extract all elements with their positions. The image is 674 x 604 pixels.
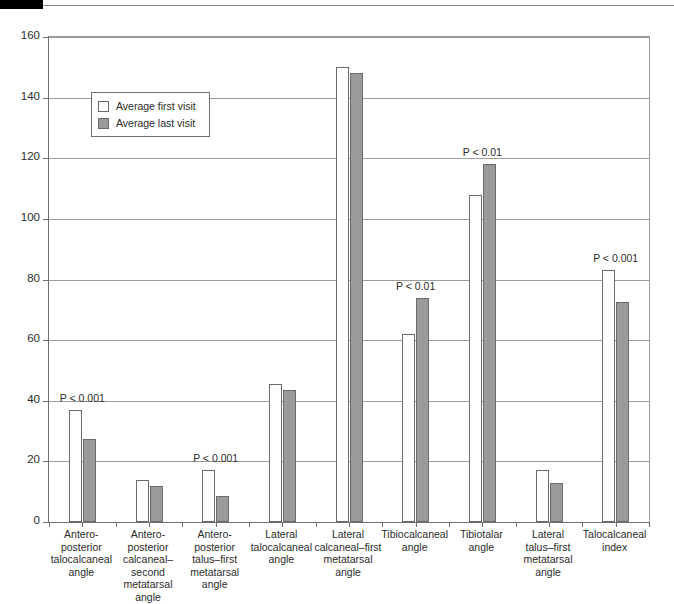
y-tick-label-20: 20	[7, 454, 40, 466]
x-category-line: talus–first	[511, 541, 586, 554]
legend-label-first-visit: Average first visit	[116, 101, 196, 112]
y-tick-mark-100	[43, 219, 49, 220]
bar-first-visit-1	[136, 480, 149, 522]
bar-last-visit-8	[616, 302, 629, 522]
y-tick-mark-140	[43, 98, 49, 99]
y-tick-label-80: 80	[7, 273, 40, 285]
p-value-annotation-6: P < 0.01	[442, 147, 522, 158]
x-tick-boundary-6	[449, 522, 450, 527]
x-category-label-8: Talocalcanealindex	[577, 528, 652, 553]
x-category-line: angle	[311, 566, 386, 579]
bar-last-visit-2	[216, 496, 229, 522]
bar-first-visit-8	[602, 270, 615, 522]
bar-first-visit-6	[469, 195, 482, 522]
x-category-line: posterior	[177, 541, 252, 554]
x-category-line: Talocalcaneal	[577, 528, 652, 541]
x-tick-boundary-3	[249, 522, 250, 527]
x-category-line: talocalcaneal	[44, 553, 119, 566]
x-category-line: Tibiocalcaneal	[377, 528, 452, 541]
x-category-line: Tibiotalar	[444, 528, 519, 541]
p-value-annotation-0: P < 0.001	[42, 393, 122, 404]
x-category-label-4: Lateralcalcaneal–firstmetatarsalangle	[311, 528, 386, 578]
x-category-line: angle	[244, 553, 319, 566]
x-category-label-3: Lateraltalocalcanealangle	[244, 528, 319, 566]
y-tick-label-100: 100	[7, 212, 40, 224]
p-value-annotation-5: P < 0.01	[376, 281, 456, 292]
x-category-line: Antero-	[44, 528, 119, 541]
p-value-annotation-8: P < 0.001	[576, 253, 656, 264]
bar-last-visit-0	[83, 439, 96, 522]
x-tick-boundary-end	[649, 522, 650, 527]
x-tick-boundary-7	[516, 522, 517, 527]
x-tick-boundary-4	[316, 522, 317, 527]
legend-label-last-visit: Average last visit	[116, 118, 195, 129]
x-tick-boundary-1	[116, 522, 117, 527]
y-tick-label-40: 40	[7, 394, 40, 406]
header-black-marker	[0, 0, 43, 9]
x-category-line: Lateral	[511, 528, 586, 541]
x-category-line: metatarsal	[511, 553, 586, 566]
bar-first-visit-7	[536, 470, 549, 522]
legend-item-first-visit: Average first visit	[98, 98, 203, 115]
x-category-line: angle	[511, 566, 586, 579]
bar-first-visit-0	[69, 410, 82, 522]
x-category-line: posterior	[111, 541, 186, 554]
y-tick-mark-160	[43, 37, 49, 38]
gray-square-icon	[98, 118, 109, 129]
x-category-line: calcaneal–first	[311, 541, 386, 554]
white-square-icon	[98, 101, 109, 112]
x-tick-center-5	[416, 522, 417, 527]
x-tick-boundary-0	[49, 522, 50, 527]
x-category-line: metatarsal	[311, 553, 386, 566]
y-tick-mark-120	[43, 158, 49, 159]
y-tick-label-160: 160	[7, 30, 40, 42]
bar-last-visit-3	[283, 390, 296, 522]
x-axis-category-labels: Antero-posteriortalocalcanealangleAntero…	[48, 528, 648, 601]
x-tick-boundary-5	[382, 522, 383, 527]
bar-last-visit-1	[150, 486, 163, 522]
x-category-line: Lateral	[311, 528, 386, 541]
x-tick-center-2	[216, 522, 217, 527]
x-category-line: talus–first	[177, 553, 252, 566]
x-tick-boundary-8	[582, 522, 583, 527]
x-category-line: Antero-	[111, 528, 186, 541]
x-category-line: metatarsal	[177, 566, 252, 579]
x-category-line: angle	[444, 541, 519, 554]
bar-last-visit-5	[416, 298, 429, 522]
x-category-label-2: Antero-posteriortalus–firstmetatarsalang…	[177, 528, 252, 591]
x-tick-center-3	[282, 522, 283, 527]
x-category-line: angle	[111, 591, 186, 604]
x-category-line: angle	[377, 541, 452, 554]
y-tick-label-0: 0	[7, 515, 40, 527]
bar-last-visit-7	[550, 483, 563, 522]
bar-first-visit-4	[336, 67, 349, 522]
x-tick-center-1	[149, 522, 150, 527]
x-category-label-5: Tibiocalcanealangle	[377, 528, 452, 553]
x-category-label-0: Antero-posteriortalocalcanealangle	[44, 528, 119, 578]
x-category-line: Antero-	[177, 528, 252, 541]
x-category-line: angle	[44, 566, 119, 579]
bar-first-visit-5	[402, 334, 415, 522]
bar-last-visit-4	[350, 73, 363, 522]
y-axis-tick-labels: 020406080100120140160	[0, 36, 40, 521]
x-category-line: posterior	[44, 541, 119, 554]
x-tick-center-8	[616, 522, 617, 527]
x-tick-center-7	[549, 522, 550, 527]
chart-legend: Average first visit Average last visit	[91, 92, 210, 137]
x-category-line: index	[577, 541, 652, 554]
y-tick-label-120: 120	[7, 151, 40, 163]
bar-first-visit-3	[269, 384, 282, 522]
x-category-line: metatarsal	[111, 578, 186, 591]
x-category-line: Lateral	[244, 528, 319, 541]
bar-last-visit-6	[483, 164, 496, 522]
legend-item-last-visit: Average last visit	[98, 115, 203, 132]
x-tick-center-4	[349, 522, 350, 527]
p-value-annotation-2: P < 0.001	[176, 453, 256, 464]
y-tick-label-140: 140	[7, 91, 40, 103]
x-category-label-6: Tibiotalarangle	[444, 528, 519, 553]
y-tick-label-60: 60	[7, 333, 40, 345]
x-category-line: talocalcaneal	[244, 541, 319, 554]
y-tick-mark-80	[43, 280, 49, 281]
gridline-160	[49, 37, 649, 38]
